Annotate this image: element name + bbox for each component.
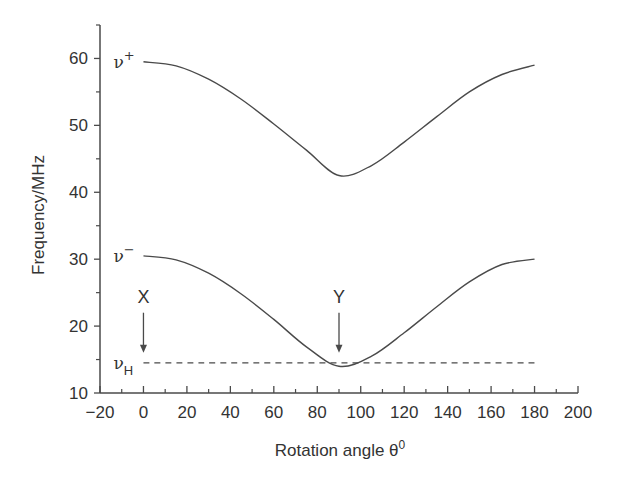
x-axis-label: Rotation angle θ0 bbox=[275, 438, 406, 460]
annotation-y-label: Y bbox=[333, 287, 345, 307]
series-nu-plus-label: ν+ bbox=[113, 48, 134, 72]
y-tick-label: 20 bbox=[69, 317, 88, 336]
y-tick-label: 30 bbox=[69, 250, 88, 269]
x-tick-label: 120 bbox=[390, 403, 418, 422]
chart: −200204060801001201401601802001020304050… bbox=[0, 0, 620, 488]
x-tick-label: 0 bbox=[139, 403, 148, 422]
series-nu-minus-label: ν− bbox=[113, 242, 134, 266]
x-tick-label: 180 bbox=[520, 403, 548, 422]
y-tick-label: 10 bbox=[69, 384, 88, 403]
x-tick-label: 100 bbox=[347, 403, 375, 422]
x-tick-label: 60 bbox=[264, 403, 283, 422]
x-tick-label: 20 bbox=[177, 403, 196, 422]
x-tick-label: −20 bbox=[86, 403, 115, 422]
x-tick-label: 40 bbox=[221, 403, 240, 422]
y-tick-label: 40 bbox=[69, 183, 88, 202]
series-nu-h-label: νH bbox=[113, 353, 133, 378]
x-tick-label: 140 bbox=[433, 403, 461, 422]
annotations-layer: XY bbox=[137, 287, 345, 353]
x-tick-label: 80 bbox=[308, 403, 327, 422]
x-tick-label: 160 bbox=[477, 403, 505, 422]
series-nu-plus-curve bbox=[143, 62, 534, 176]
series-layer: ν+ν−νH bbox=[113, 48, 534, 378]
x-tick-label: 200 bbox=[564, 403, 592, 422]
arrow-down-icon bbox=[140, 345, 147, 353]
annotation-x-label: X bbox=[137, 287, 149, 307]
arrow-down-icon bbox=[336, 345, 343, 353]
y-tick-label: 60 bbox=[69, 49, 88, 68]
y-tick-label: 50 bbox=[69, 116, 88, 135]
y-axis-label: Frequency/MHz bbox=[29, 155, 48, 275]
